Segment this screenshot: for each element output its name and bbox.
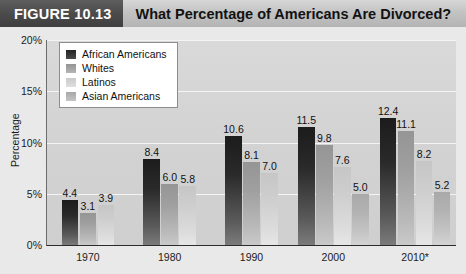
bar: 9.8 bbox=[316, 145, 333, 245]
legend-label: Whites bbox=[82, 62, 114, 74]
bar-value-label: 3.1 bbox=[81, 200, 96, 212]
y-axis-tick-label: 5% bbox=[27, 188, 42, 200]
bar: 4.4 bbox=[62, 200, 79, 245]
bar: 8.4 bbox=[143, 159, 160, 245]
bar-value-label: 8.2 bbox=[417, 148, 432, 160]
bar: 10.6 bbox=[225, 136, 242, 245]
bar: 8.1 bbox=[243, 162, 260, 245]
legend-item: African Americans bbox=[66, 47, 167, 61]
x-axis-tick-label: 1990 bbox=[240, 251, 263, 263]
bar-value-label: 5.2 bbox=[435, 179, 450, 191]
bar: 11.5 bbox=[298, 127, 315, 245]
bar-value-label: 11.5 bbox=[296, 114, 316, 126]
bar-value-label: 7.6 bbox=[335, 154, 350, 166]
chart-body: Percentage 0%5%10%15%20% 4.43.13.98.46.0… bbox=[0, 27, 466, 274]
y-axis-tick-label: 10% bbox=[21, 137, 42, 149]
bar: 7.0 bbox=[261, 173, 278, 245]
figure-title: What Percentage of Americans Are Divorce… bbox=[123, 0, 452, 27]
bar: 11.1 bbox=[398, 131, 415, 245]
legend-item: Asian Americans bbox=[66, 89, 167, 103]
bar-value-label: 11.1 bbox=[396, 118, 416, 130]
y-axis-tick-label: 0% bbox=[27, 239, 42, 251]
legend-item: Whites bbox=[66, 61, 167, 75]
x-axis-tick-label: 1980 bbox=[158, 251, 181, 263]
legend-label: African Americans bbox=[82, 48, 167, 60]
chart-legend: African AmericansWhitesLatinosAsian Amer… bbox=[59, 42, 178, 108]
bar-value-label: 8.4 bbox=[144, 146, 159, 158]
bar-value-label: 3.9 bbox=[99, 192, 114, 204]
legend-swatch bbox=[66, 78, 76, 87]
figure-container: FIGURE 10.13 What Percentage of American… bbox=[0, 0, 466, 274]
bar-value-label: 8.1 bbox=[244, 149, 259, 161]
bar-value-label: 4.4 bbox=[63, 187, 78, 199]
bar: 5.2 bbox=[434, 192, 451, 245]
bar: 3.9 bbox=[98, 205, 115, 245]
legend-label: Asian Americans bbox=[82, 90, 160, 102]
legend-swatch bbox=[66, 92, 76, 101]
y-axis-tick-label: 15% bbox=[21, 85, 42, 97]
x-axis-tick-label: 2010* bbox=[401, 251, 428, 263]
bar: 7.6 bbox=[334, 167, 351, 245]
legend-swatch bbox=[66, 50, 76, 59]
bar-value-label: 10.6 bbox=[223, 123, 243, 135]
bar: 5.0 bbox=[352, 194, 369, 245]
gridline bbox=[47, 40, 456, 41]
bar: 3.1 bbox=[80, 213, 97, 245]
figure-header: FIGURE 10.13 What Percentage of American… bbox=[0, 0, 466, 27]
legend-swatch bbox=[66, 64, 76, 73]
bar-value-label: 7.0 bbox=[262, 160, 277, 172]
bar: 12.4 bbox=[380, 118, 397, 245]
bar: 5.8 bbox=[179, 186, 196, 245]
x-axis-tick-label: 1970 bbox=[76, 251, 99, 263]
bar: 8.2 bbox=[416, 161, 433, 245]
y-axis-tick-label: 20% bbox=[21, 34, 42, 46]
bar-value-label: 9.8 bbox=[317, 132, 332, 144]
legend-label: Latinos bbox=[82, 76, 116, 88]
legend-item: Latinos bbox=[66, 75, 167, 89]
y-axis-title: Percentage bbox=[9, 113, 21, 167]
x-axis-tick-label: 2000 bbox=[322, 251, 345, 263]
bar: 6.0 bbox=[161, 184, 178, 246]
bar-value-label: 5.0 bbox=[353, 181, 368, 193]
bar-value-label: 12.4 bbox=[378, 105, 398, 117]
bar-value-label: 6.0 bbox=[162, 171, 177, 183]
bar-value-label: 5.8 bbox=[180, 173, 195, 185]
figure-number-label: FIGURE 10.13 bbox=[0, 0, 123, 27]
